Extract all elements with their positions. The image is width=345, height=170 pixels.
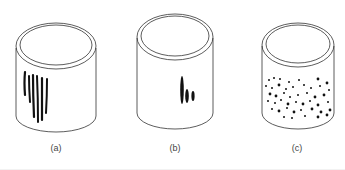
cylinder-a-rim-outer xyxy=(16,23,96,69)
dot xyxy=(289,96,291,98)
dot xyxy=(275,95,278,98)
dot xyxy=(317,104,320,107)
dot xyxy=(304,115,306,117)
cylinder-c-dots xyxy=(265,77,331,119)
dot xyxy=(326,114,329,117)
panel-label-c: (c) xyxy=(282,143,312,153)
dot xyxy=(265,85,267,87)
dot xyxy=(273,77,275,79)
dot xyxy=(283,116,285,118)
cylinder-a-rim-inner xyxy=(20,25,92,65)
dot xyxy=(295,101,297,103)
streak xyxy=(191,91,194,101)
cylinder-b-rim-inner xyxy=(141,16,209,56)
dot xyxy=(326,82,329,85)
cylinder-b-body xyxy=(137,38,213,129)
dot xyxy=(291,117,293,119)
cylinder-b-rim-outer xyxy=(137,14,213,60)
dot xyxy=(319,85,321,87)
dot xyxy=(297,94,299,96)
cylinder-a-streaks xyxy=(25,72,48,122)
dot xyxy=(267,100,269,102)
panel-label-b: (b) xyxy=(160,143,190,153)
dot xyxy=(320,111,323,114)
dot xyxy=(283,92,285,94)
dot xyxy=(274,102,276,104)
streak xyxy=(46,79,47,113)
streak xyxy=(37,76,38,122)
streak xyxy=(29,76,30,102)
dot xyxy=(271,87,273,89)
dot xyxy=(286,107,288,109)
cylinder-b-streaks xyxy=(180,76,194,104)
cylinder-c xyxy=(262,23,334,129)
dot xyxy=(278,110,281,113)
dot xyxy=(269,93,272,96)
cylinder-a-body xyxy=(16,48,96,132)
cylinder-c-rim-outer xyxy=(262,23,334,67)
dot xyxy=(310,87,312,89)
panel-label-a: (a) xyxy=(41,143,71,153)
streak xyxy=(185,89,189,103)
dot xyxy=(293,111,296,114)
dot xyxy=(306,92,308,94)
dot xyxy=(317,116,320,119)
dot xyxy=(278,84,281,87)
dot xyxy=(303,84,305,86)
dot xyxy=(323,94,326,97)
dot xyxy=(309,100,311,102)
dot xyxy=(268,79,270,81)
streak xyxy=(180,76,184,104)
dot xyxy=(279,78,281,80)
cylinder-c-rim-inner xyxy=(266,25,330,63)
dot xyxy=(329,109,332,112)
dot xyxy=(292,86,294,88)
dot xyxy=(317,78,320,81)
streak xyxy=(25,72,26,95)
dot xyxy=(271,108,273,110)
dot xyxy=(300,109,302,111)
dot xyxy=(280,99,282,101)
dot xyxy=(298,79,300,81)
dot xyxy=(328,89,330,91)
cylinder-a xyxy=(16,23,96,132)
dot xyxy=(314,96,317,99)
dot xyxy=(311,108,314,111)
dot xyxy=(285,88,287,90)
dot xyxy=(302,103,305,106)
dot xyxy=(288,81,290,83)
dot xyxy=(287,103,290,106)
streak xyxy=(33,75,34,117)
dot xyxy=(327,101,329,103)
cylinder-b xyxy=(137,14,213,129)
